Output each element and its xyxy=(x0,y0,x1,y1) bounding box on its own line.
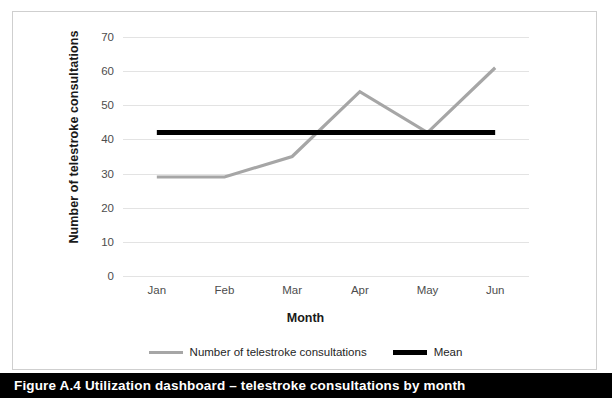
y-tick-label: 40 xyxy=(101,133,114,145)
x-tick-label: Jun xyxy=(486,284,505,296)
y-tick-label: 50 xyxy=(101,99,114,111)
x-tick-label: Apr xyxy=(351,284,369,296)
figure-container: Number of telestroke consultations 01020… xyxy=(0,0,612,398)
x-tick-label: May xyxy=(417,284,439,296)
legend-swatch-icon xyxy=(149,351,183,354)
line-series-consultations xyxy=(157,68,495,177)
legend-label: Number of telestroke consultations xyxy=(190,346,367,358)
legend-item[interactable]: Mean xyxy=(393,346,463,358)
legend-swatch-icon xyxy=(393,350,427,355)
y-tick-label: 60 xyxy=(101,65,114,77)
y-tick-label: 20 xyxy=(101,202,114,214)
y-tick-label: 30 xyxy=(101,168,114,180)
y-tick-label: 0 xyxy=(108,270,114,282)
y-tick-label: 70 xyxy=(101,31,114,43)
x-tick-label: Feb xyxy=(215,284,235,296)
y-axis-title: Number of telestroke consultations xyxy=(67,12,81,262)
plot-area: 010203040506070 JanFebMarAprMayJun xyxy=(123,37,529,276)
gridline xyxy=(123,276,529,277)
chart-frame: Number of telestroke consultations 01020… xyxy=(12,11,597,370)
x-tick-label: Jan xyxy=(148,284,167,296)
legend-label: Mean xyxy=(434,346,463,358)
legend-item[interactable]: Number of telestroke consultations xyxy=(149,346,367,358)
figure-caption-text: Figure A.4 Utilization dashboard – teles… xyxy=(0,378,466,393)
x-axis-title: Month xyxy=(13,311,598,325)
figure-caption-bar: Figure A.4 Utilization dashboard – teles… xyxy=(0,373,612,398)
y-tick-label: 10 xyxy=(101,236,114,248)
series-lines xyxy=(123,37,529,276)
x-tick-label: Mar xyxy=(282,284,302,296)
chart-legend: Number of telestroke consultationsMean xyxy=(13,346,598,358)
